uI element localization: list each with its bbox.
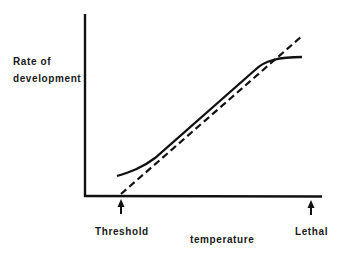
x-axis-label: temperature — [190, 234, 254, 246]
lethal-label: Lethal — [295, 226, 328, 238]
y-axis-label-line2: development — [13, 73, 81, 85]
y-axis-label-line1: Rate of — [13, 56, 51, 68]
development-curve — [117, 57, 302, 176]
x-axis — [84, 196, 322, 197]
threshold-label: Threshold — [95, 226, 149, 238]
development-rate-diagram — [0, 0, 341, 255]
lethal-arrow-icon — [308, 200, 315, 215]
threshold-arrow-icon — [118, 199, 125, 214]
